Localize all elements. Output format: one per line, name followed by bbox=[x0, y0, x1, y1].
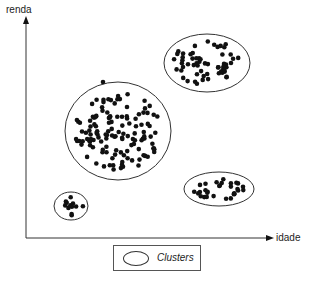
x-axis-label: idade bbox=[276, 232, 300, 243]
clusters bbox=[54, 34, 254, 220]
ellipse-icon bbox=[123, 251, 149, 266]
cluster-large-center bbox=[65, 82, 171, 180]
legend-label: Clusters bbox=[157, 252, 194, 263]
cluster-small-bottom-left bbox=[54, 192, 88, 220]
legend: Clusters bbox=[113, 245, 201, 271]
cluster-bottom-right bbox=[184, 172, 254, 206]
y-axis-arrow-icon bbox=[23, 16, 29, 24]
axes bbox=[23, 16, 274, 241]
y-axis-label: renda bbox=[6, 4, 32, 15]
x-axis-arrow-icon bbox=[266, 235, 274, 241]
cluster-top-right bbox=[164, 34, 250, 92]
